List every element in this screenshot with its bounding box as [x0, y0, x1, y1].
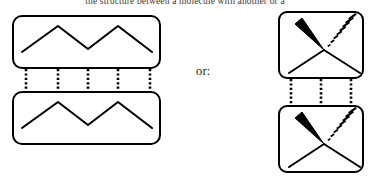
left-connector-group: [26, 69, 150, 91]
or-connector-label: or:: [196, 64, 211, 79]
diagram-canvas: [0, 0, 370, 185]
right-connector-group: [291, 79, 351, 105]
right-pair-group: [279, 12, 363, 172]
figure-root: the structure between a molecule with an…: [0, 0, 370, 185]
left-lower-box: [13, 92, 160, 144]
right-lower-box: [279, 106, 363, 172]
left-upper-box: [13, 16, 160, 68]
right-upper-box: [279, 12, 363, 78]
left-pair-group: [13, 16, 160, 144]
